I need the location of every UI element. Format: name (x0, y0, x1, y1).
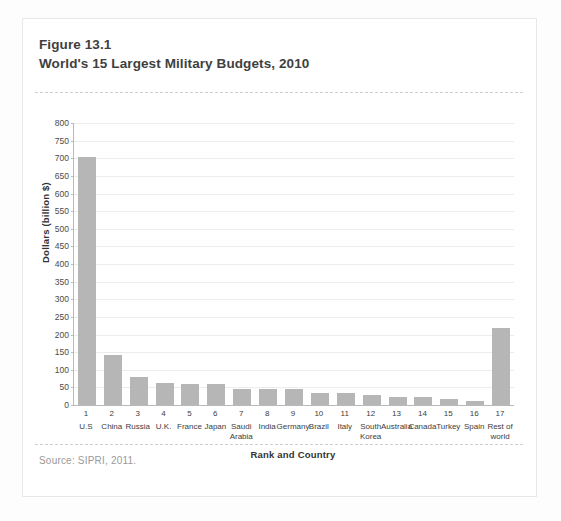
bar (181, 384, 199, 406)
x-axis-title: Rank and Country (73, 449, 513, 460)
y-axis-tick-label: 700 (55, 153, 69, 163)
page-title: World's 15 Largest Military Budgets, 201… (39, 54, 509, 73)
y-axis-tick-label: 150 (55, 347, 69, 357)
bar-chart: Dollars (billion $) 05010015020025030035… (23, 97, 538, 442)
bar-series (74, 123, 514, 405)
y-axis-tick-label: 200 (55, 330, 69, 340)
figure-number: Figure 13.1 (39, 35, 509, 54)
bar (285, 389, 303, 405)
figure-card: Figure 13.1 World's 15 Largest Military … (22, 18, 537, 497)
y-axis-tick-label: 50 (60, 382, 69, 392)
plot-area: 0501001502002503003504004505005506006507… (73, 123, 514, 406)
bar (207, 384, 225, 405)
bar (492, 328, 510, 405)
figure-page: Figure 13.1 World's 15 Largest Military … (0, 0, 561, 521)
divider-top (35, 92, 523, 93)
x-axis-rank: 17 (482, 409, 518, 420)
source-note: Source: SIPRI, 2011. (39, 455, 136, 466)
y-axis-tick-label: 800 (55, 118, 69, 128)
bar (311, 393, 329, 405)
bar (104, 355, 122, 405)
bar (78, 157, 96, 406)
bar (389, 397, 407, 405)
y-axis-tick-label: 400 (55, 259, 69, 269)
y-axis-tick-mark (71, 405, 74, 406)
bar (259, 389, 277, 405)
bar (414, 397, 432, 405)
y-axis-tick-label: 100 (55, 365, 69, 375)
figure-header: Figure 13.1 World's 15 Largest Military … (39, 35, 509, 73)
bar (440, 399, 458, 405)
x-axis-country: Rest of world (482, 422, 518, 443)
y-axis-tick-label: 600 (55, 189, 69, 199)
bar (156, 383, 174, 405)
bar (363, 395, 381, 405)
x-axis-tick-label: 17Rest of world (482, 409, 518, 443)
y-axis-tick-label: 450 (55, 241, 69, 251)
bar (130, 377, 148, 405)
y-axis-tick-label: 550 (55, 206, 69, 216)
bar (233, 389, 251, 405)
y-axis-tick-label: 500 (55, 224, 69, 234)
bar (466, 401, 484, 405)
x-axis-tick-labels: 1U.S2China3Russia4U.K.5France6Japan7Saud… (73, 409, 513, 449)
y-axis-tick-label: 300 (55, 294, 69, 304)
y-axis-tick-label: 750 (55, 136, 69, 146)
y-axis-tick-label: 250 (55, 312, 69, 322)
y-axis-tick-label: 350 (55, 277, 69, 287)
y-axis-tick-label: 650 (55, 171, 69, 181)
y-axis-title: Dollars (billion $) (40, 143, 51, 303)
divider-bottom (35, 444, 523, 445)
bar (337, 393, 355, 405)
